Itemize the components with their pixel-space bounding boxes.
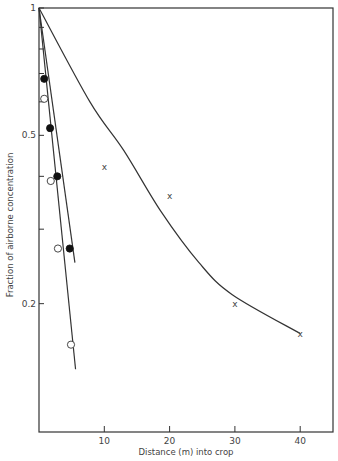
plot-frame <box>39 8 333 432</box>
y-tick-label: 0.2 <box>22 299 36 309</box>
x-tick-label: 30 <box>229 436 241 446</box>
chart-figure: 10.50.2 10203040 xxxx Distance (m) into … <box>0 0 338 461</box>
data-point-filled <box>66 245 73 252</box>
x-tick-label: 20 <box>164 436 176 446</box>
chart-plot: 10.50.2 10203040 xxxx Distance (m) into … <box>0 0 338 461</box>
fit-curve <box>39 8 300 334</box>
plot-border <box>39 8 333 432</box>
y-axis-ticks: 10.50.2 <box>22 3 44 309</box>
data-point-cross: x <box>167 191 173 201</box>
data-point-open <box>47 177 54 184</box>
data-point-filled <box>54 173 61 180</box>
data-point-filled <box>41 75 48 82</box>
fit-line <box>39 8 76 369</box>
data-point-open <box>67 341 74 348</box>
x-tick-label: 40 <box>294 436 306 446</box>
y-tick-label: 0.5 <box>22 130 36 140</box>
x-axis-label: Distance (m) into crop <box>138 447 233 457</box>
data-point-open <box>41 95 48 102</box>
fit-line <box>39 8 75 263</box>
data-point-filled <box>47 125 54 132</box>
data-point-open <box>54 245 61 252</box>
x-axis-ticks: 10203040 <box>99 426 307 446</box>
data-point-cross: x <box>102 162 108 172</box>
y-tick-label: 1 <box>30 3 36 13</box>
fit-lines <box>39 8 300 369</box>
data-point-cross: x <box>298 329 304 339</box>
y-axis-label: Fraction of airborne concentration <box>5 153 15 298</box>
data-markers: xxxx <box>41 75 304 348</box>
x-tick-label: 10 <box>99 436 111 446</box>
data-point-cross: x <box>232 299 238 309</box>
